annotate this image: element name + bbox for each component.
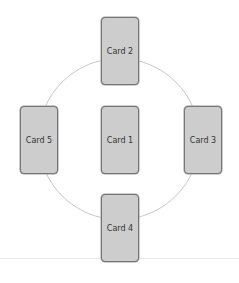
card-4[interactable]: Card 4 [101, 194, 139, 262]
card-2[interactable]: Card 2 [101, 17, 139, 85]
card-3[interactable]: Card 3 [184, 106, 222, 174]
card-label: Card 3 [190, 136, 216, 145]
card-1[interactable]: Card 1 [101, 106, 139, 174]
card-5[interactable]: Card 5 [20, 106, 58, 174]
card-label: Card 5 [26, 136, 52, 145]
card-label: Card 4 [107, 224, 133, 233]
card-label: Card 2 [107, 47, 133, 56]
card-label: Card 1 [107, 136, 133, 145]
